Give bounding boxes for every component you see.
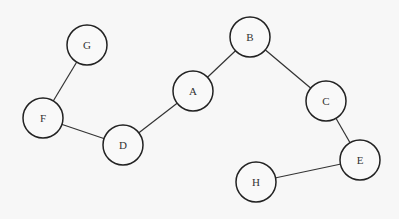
node-b: B: [230, 17, 270, 57]
nodes-layer: GFDABCEH: [23, 17, 380, 202]
node-g: G: [67, 25, 107, 65]
node-label: E: [357, 154, 364, 166]
node-c: C: [306, 81, 346, 121]
node-a: A: [173, 71, 213, 111]
graph-canvas: GFDABCEH: [0, 0, 399, 219]
node-label: G: [83, 39, 91, 51]
node-f: F: [23, 98, 63, 138]
node-label: B: [246, 31, 253, 43]
node-d: D: [103, 125, 143, 165]
node-h: H: [236, 162, 276, 202]
node-label: A: [189, 85, 197, 97]
node-label: D: [119, 139, 127, 151]
node-e: E: [340, 140, 380, 180]
node-label: F: [40, 112, 46, 124]
node-label: C: [322, 95, 329, 107]
node-label: H: [252, 176, 260, 188]
